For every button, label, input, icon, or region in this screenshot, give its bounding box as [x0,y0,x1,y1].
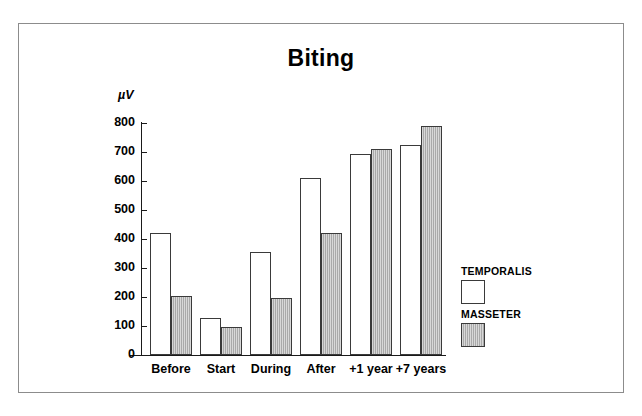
page-title: Biting [0,45,642,72]
x-axis-line [130,355,446,356]
bar-temporalis-during [250,252,271,355]
legend-swatch-temporalis [461,280,485,304]
bar-masseter-before [171,296,192,355]
y-axis-tick-label: 400 [101,231,135,245]
bar-temporalis-before [150,233,171,355]
bar-masseter--7-years [421,126,442,355]
legend-label-masseter: MASSETER [461,308,521,320]
bar-masseter-after [321,233,342,355]
bar-temporalis--1-year [350,154,371,355]
bar-masseter-during [271,298,292,355]
x-axis-label-start: Start [194,362,248,376]
y-axis-tick-label: 600 [101,173,135,187]
chart-figure: Biting µV 0100200300400500600700800 Befo… [0,0,642,416]
x-axis-label-during: During [244,362,298,376]
x-axis-label--1-year: +1 year [344,362,398,376]
bar-masseter-start [221,327,242,355]
bar-masseter--1-year [371,149,392,355]
x-axis-label-before: Before [144,362,198,376]
bar-temporalis-start [200,318,221,355]
y-axis-tick-label: 300 [101,260,135,274]
y-axis-tick [142,355,147,356]
bar-temporalis--7-years [400,145,421,355]
x-axis-label--7-years: +7 years [394,362,448,376]
legend-item-temporalis: TEMPORALIS [461,265,532,304]
bar-temporalis-after [300,178,321,355]
y-axis-tick-label: 700 [101,144,135,158]
y-axis-tick-label: 0 [101,347,135,361]
y-axis-tick-label: 200 [101,289,135,303]
y-axis-tick-label: 100 [101,318,135,332]
legend-label-temporalis: TEMPORALIS [461,265,532,277]
y-axis-unit-label: µV [118,88,134,102]
x-axis-label-after: After [294,362,348,376]
legend-item-masseter: MASSETER [461,308,521,347]
y-axis-tick-label: 800 [101,115,135,129]
y-axis-tick-label: 500 [101,202,135,216]
plot-area [141,123,441,355]
legend-swatch-masseter [461,323,485,347]
